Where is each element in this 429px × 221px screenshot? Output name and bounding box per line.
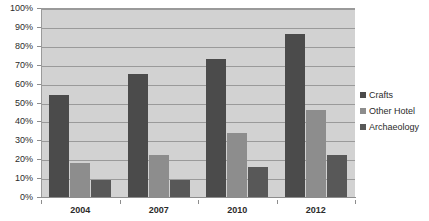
x-tick-mark	[277, 200, 278, 204]
bar-chart: 0%10%20%30%40%50%60%70%80%90%100% 200420…	[0, 0, 429, 221]
bar-crafts-2004	[49, 95, 69, 197]
y-tick-label: 60%	[15, 79, 33, 88]
bar-archaeology-2012	[327, 155, 347, 197]
bar-group-2004	[49, 8, 111, 197]
legend-item-crafts[interactable]: Crafts	[360, 88, 429, 102]
x-tick-mark	[41, 200, 42, 204]
y-tick-label: 90%	[15, 22, 33, 31]
y-tick-label: 100%	[10, 4, 33, 13]
legend-label: Crafts	[369, 91, 393, 100]
legend: CraftsOther HotelArchaeology	[360, 88, 429, 136]
x-axis-line	[41, 197, 356, 198]
bar-crafts-2010	[206, 59, 226, 197]
legend-swatch-icon	[360, 124, 366, 130]
x-tick-mark	[120, 200, 121, 204]
bar-other-hotel-2007	[149, 155, 169, 197]
x-tick-label-2004: 2004	[70, 205, 90, 215]
y-axis: 0%10%20%30%40%50%60%70%80%90%100%	[0, 0, 38, 221]
x-tick-label-2010: 2010	[227, 205, 247, 215]
bar-other-hotel-2004	[70, 163, 90, 197]
bars-layer	[41, 8, 355, 197]
y-tick-label: 40%	[15, 117, 33, 126]
bar-archaeology-2004	[91, 180, 111, 197]
y-tick-mark	[37, 197, 41, 198]
bar-crafts-2007	[128, 74, 148, 197]
x-tick-label-2012: 2012	[306, 205, 326, 215]
y-tick-label: 10%	[15, 174, 33, 183]
x-axis: 2004200720102012	[41, 200, 355, 220]
bar-group-2012	[285, 8, 347, 197]
bar-archaeology-2010	[248, 167, 268, 197]
legend-swatch-icon	[360, 108, 366, 114]
bar-group-2010	[206, 8, 268, 197]
x-tick-mark	[355, 200, 356, 204]
bar-archaeology-2007	[170, 180, 190, 197]
bar-group-2007	[128, 8, 190, 197]
legend-swatch-icon	[360, 92, 366, 98]
y-tick-label: 30%	[15, 136, 33, 145]
y-tick-label: 70%	[15, 60, 33, 69]
bar-other-hotel-2010	[227, 133, 247, 197]
legend-item-other-hotel[interactable]: Other Hotel	[360, 104, 429, 118]
x-tick-label-2007: 2007	[149, 205, 169, 215]
y-tick-label: 50%	[15, 98, 33, 107]
y-tick-label: 20%	[15, 155, 33, 164]
legend-item-archaeology[interactable]: Archaeology	[360, 120, 429, 134]
bar-crafts-2012	[285, 34, 305, 197]
legend-label: Archaeology	[369, 123, 419, 132]
x-tick-mark	[198, 200, 199, 204]
legend-label: Other Hotel	[369, 107, 415, 116]
bar-other-hotel-2012	[306, 110, 326, 197]
y-tick-label: 80%	[15, 41, 33, 50]
y-tick-label: 0%	[20, 193, 33, 202]
